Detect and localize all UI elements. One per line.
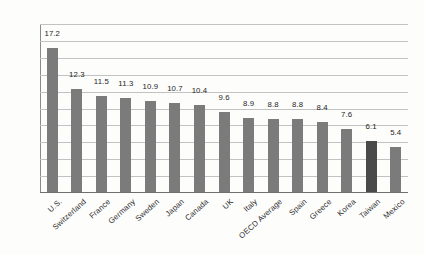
bar[interactable] (219, 112, 230, 193)
bar-slot[interactable]: 17.2 (47, 24, 58, 193)
bar[interactable] (194, 105, 205, 193)
bar-slot[interactable]: 11.3 (120, 24, 131, 193)
bar-slot[interactable]: 6.1 (366, 24, 377, 193)
bar-value-label: 5.4 (390, 128, 401, 137)
x-axis-line (40, 192, 408, 193)
bar[interactable] (366, 141, 377, 193)
bar-slot[interactable]: 8.8 (292, 24, 303, 193)
bar-slot[interactable]: 8.9 (243, 24, 254, 193)
bar-slot[interactable]: 7.6 (341, 24, 352, 193)
bar-slot[interactable]: 11.5 (96, 24, 107, 193)
bar-value-label: 6.1 (366, 122, 377, 131)
bar[interactable] (317, 122, 328, 193)
bar-value-label: 7.6 (341, 110, 352, 119)
bar[interactable] (169, 103, 180, 193)
x-tick-label: Mexico (382, 197, 407, 221)
bar-value-label: 8.8 (292, 100, 303, 109)
bar-value-label: 8.9 (243, 99, 254, 108)
bar-value-label: 11.5 (94, 77, 109, 86)
bar[interactable] (243, 118, 254, 193)
bar-value-label: 10.9 (143, 82, 159, 91)
bar-value-label: 17.2 (44, 29, 60, 38)
bar-value-label: 11.3 (118, 79, 133, 88)
bar-chart: 0.02.04.06.08.010.012.014.016.018.020.0 … (0, 0, 424, 255)
bar-value-label: 9.6 (218, 93, 229, 102)
bar-slot[interactable]: 8.8 (268, 24, 279, 193)
bar-slot[interactable]: 10.4 (194, 24, 205, 193)
bar[interactable] (120, 98, 131, 193)
bar-value-label: 8.4 (317, 103, 328, 112)
caption-strip (0, 239, 424, 255)
x-tick-label: Greece (307, 197, 333, 221)
bar[interactable] (341, 129, 352, 193)
x-tick-label: Sweden (134, 197, 162, 223)
bar[interactable] (292, 119, 303, 193)
bar-value-label: 10.7 (167, 84, 183, 93)
x-tick-label: Italy (242, 197, 259, 214)
x-tick-label: UK (221, 197, 235, 211)
bar-slot[interactable]: 12.3 (71, 24, 82, 193)
bar-slot[interactable]: 8.4 (317, 24, 328, 193)
x-tick-label: Canada (183, 197, 210, 223)
bar-slot[interactable]: 10.9 (145, 24, 156, 193)
bar-series: 17.212.311.511.310.910.710.49.68.98.88.8… (40, 24, 408, 193)
bar[interactable] (71, 89, 82, 193)
plot-area: 0.02.04.06.08.010.012.014.016.018.020.0 … (40, 24, 408, 193)
bar[interactable] (145, 101, 156, 193)
bar[interactable] (96, 96, 107, 193)
bar-value-label: 10.4 (192, 86, 208, 95)
x-tick-label: Taiwan (357, 197, 382, 221)
bar-value-label: 8.8 (267, 100, 278, 109)
bar-slot[interactable]: 9.6 (219, 24, 230, 193)
bar-value-label: 12.3 (69, 70, 85, 79)
bar[interactable] (390, 147, 401, 193)
x-tick-label: U.S. (46, 197, 64, 214)
bar-slot[interactable]: 5.4 (390, 24, 401, 193)
bar[interactable] (47, 48, 58, 193)
bar-slot[interactable]: 10.7 (169, 24, 180, 193)
x-tick-label: Spain (287, 197, 308, 218)
x-tick-label: Korea (336, 197, 358, 218)
bar[interactable] (268, 119, 279, 193)
